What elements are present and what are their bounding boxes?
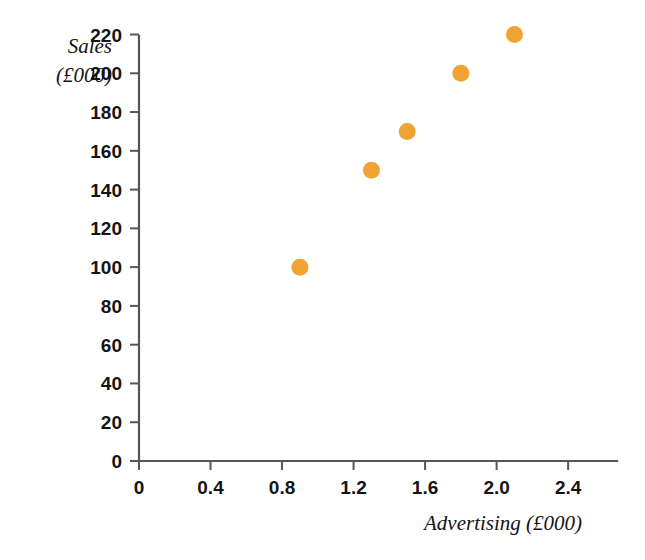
x-tick-label: 2.4	[555, 477, 582, 498]
y-axis-ticks: 020406080100120140160180200220	[90, 25, 145, 472]
y-tick-label: 20	[101, 412, 122, 433]
scatter-chart: 020406080100120140160180200220 00.40.81.…	[0, 0, 645, 560]
y-axis-title-line1: Sales	[68, 34, 112, 58]
x-axis-ticks: 00.40.81.21.62.02.4	[134, 453, 582, 498]
x-tick-label: 1.6	[412, 477, 438, 498]
y-tick-label: 40	[101, 373, 122, 394]
x-tick-label: 0.4	[197, 477, 224, 498]
y-tick-label: 120	[90, 218, 122, 239]
x-axis-title: Advertising (£000)	[422, 511, 582, 535]
y-tick-label: 80	[101, 296, 122, 317]
y-tick-label: 180	[90, 102, 122, 123]
y-axis-title-line2: (£000)	[56, 63, 112, 87]
data-point-marker	[363, 162, 380, 179]
y-tick-label: 160	[90, 141, 122, 162]
x-tick-label: 2.0	[483, 477, 509, 498]
x-tick-label: 0	[134, 477, 145, 498]
data-point-marker	[452, 65, 469, 82]
y-tick-label: 60	[101, 335, 122, 356]
data-points	[291, 26, 523, 276]
y-tick-label: 140	[90, 180, 122, 201]
x-tick-label: 0.8	[269, 477, 295, 498]
y-tick-label: 100	[90, 257, 122, 278]
y-tick-label: 0	[111, 451, 122, 472]
data-point-marker	[291, 259, 308, 276]
data-point-marker	[399, 123, 416, 140]
data-point-marker	[506, 26, 523, 43]
chart-canvas: 020406080100120140160180200220 00.40.81.…	[0, 0, 645, 560]
x-tick-label: 1.2	[340, 477, 366, 498]
